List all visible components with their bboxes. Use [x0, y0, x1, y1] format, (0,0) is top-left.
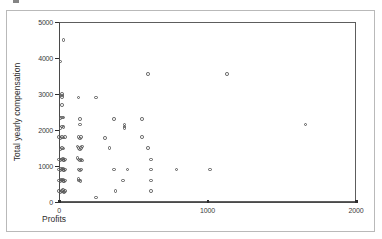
y-tick-mark — [55, 58, 59, 59]
y-axis-title: Total yearly compensation — [12, 63, 22, 161]
data-point — [149, 189, 153, 193]
data-point — [108, 146, 112, 150]
data-point — [112, 117, 116, 121]
data-point — [59, 126, 63, 130]
y-tick-label: 0 — [49, 199, 53, 206]
y-tick-mark — [55, 130, 59, 131]
data-point — [146, 146, 150, 150]
data-point — [208, 168, 212, 172]
data-point — [78, 123, 82, 127]
data-point — [140, 117, 144, 121]
y-tick-label: 1000 — [38, 163, 53, 170]
data-point — [60, 103, 64, 107]
data-point — [78, 117, 82, 121]
data-point — [60, 95, 64, 99]
data-point — [57, 135, 61, 139]
y-tick-label: 2000 — [38, 127, 53, 134]
data-point — [79, 135, 83, 139]
data-point — [149, 158, 153, 162]
y-tick-label: 3000 — [38, 91, 53, 98]
data-point — [62, 190, 66, 194]
data-point — [79, 168, 83, 172]
y-tick-mark — [55, 166, 59, 167]
data-point — [140, 135, 144, 139]
data-point — [175, 168, 179, 172]
crop-artifact — [13, 0, 19, 3]
data-point — [80, 145, 84, 149]
data-point — [94, 96, 98, 100]
data-point — [62, 116, 66, 120]
x-axis-title: Profits — [42, 214, 66, 224]
data-point — [62, 159, 66, 163]
y-tick-label: 5000 — [38, 19, 53, 26]
x-tick-label: 0 — [57, 207, 61, 214]
data-point — [304, 123, 308, 127]
x-tick-label: 1000 — [200, 207, 215, 214]
data-point — [77, 177, 81, 181]
x-tick-mark — [58, 200, 61, 203]
data-point — [62, 180, 66, 184]
scatter-plot-area: 010002000300040005000 010002000 — [59, 22, 356, 202]
data-point — [62, 147, 66, 151]
data-point — [126, 168, 130, 172]
x-tick-label: 2000 — [349, 207, 364, 214]
data-point — [59, 147, 63, 151]
data-point — [62, 169, 66, 173]
data-point — [63, 135, 67, 139]
x-tick-mark — [355, 200, 358, 203]
y-tick-mark — [55, 22, 59, 23]
screenshot-canvas: 010002000300040005000 010002000 Total ye… — [0, 0, 382, 239]
data-point — [94, 196, 98, 200]
data-point — [62, 125, 66, 129]
data-point — [123, 126, 127, 130]
data-point — [103, 136, 107, 140]
data-point — [149, 168, 153, 172]
data-point — [80, 159, 84, 163]
data-point — [146, 72, 150, 76]
data-point — [225, 72, 229, 76]
data-point — [114, 189, 118, 193]
data-point — [149, 179, 153, 183]
y-tick-label: 4000 — [38, 55, 53, 62]
data-point — [59, 60, 63, 64]
data-point — [121, 179, 125, 183]
data-point — [112, 168, 116, 172]
data-point — [59, 116, 63, 120]
y-tick-mark — [55, 94, 59, 95]
data-point — [77, 96, 81, 100]
data-point — [62, 38, 66, 42]
x-tick-mark — [207, 200, 210, 203]
